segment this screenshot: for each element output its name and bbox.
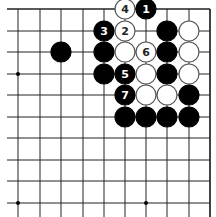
black-stone	[157, 64, 177, 84]
black-stone-5: 5	[115, 64, 135, 84]
black-stone-7: 7	[115, 85, 135, 105]
white-stone	[115, 42, 135, 62]
move-number: 2	[121, 25, 129, 38]
white-stone	[136, 64, 156, 84]
move-number: 6	[142, 46, 150, 59]
black-stone	[136, 107, 156, 127]
white-stone	[136, 85, 156, 105]
black-stone	[179, 85, 199, 105]
white-stone	[157, 85, 177, 105]
white-stone	[179, 21, 199, 41]
white-stone-2: 2	[115, 21, 135, 41]
move-number: 7	[121, 89, 129, 102]
white-stone	[179, 64, 199, 84]
move-number: 5	[121, 68, 129, 81]
move-number: 1	[142, 3, 150, 16]
black-stone	[94, 64, 114, 84]
black-stone	[115, 107, 135, 127]
black-stone	[157, 21, 177, 41]
white-stone-6: 6	[136, 42, 156, 62]
star-point	[16, 72, 20, 76]
move-number: 3	[100, 25, 108, 38]
white-stone	[179, 42, 199, 62]
black-stone	[51, 42, 71, 62]
stones: 4132657	[51, 0, 199, 127]
black-stone	[157, 107, 177, 127]
star-point	[16, 201, 20, 205]
star-point	[144, 201, 148, 205]
black-stone	[179, 107, 199, 127]
black-stone-3: 3	[94, 21, 114, 41]
white-stone-4: 4	[115, 0, 135, 19]
black-stone	[157, 42, 177, 62]
move-number: 4	[121, 3, 129, 16]
go-board: 4132657	[0, 0, 216, 217]
black-stone-1: 1	[136, 0, 156, 19]
clipped-caption	[10, 211, 210, 217]
black-stone	[94, 42, 114, 62]
